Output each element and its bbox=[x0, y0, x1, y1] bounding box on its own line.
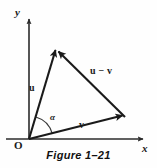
vector-diagram bbox=[0, 0, 157, 168]
vector-u-minus-v-label: u − v bbox=[90, 66, 112, 76]
vector-u-minus-v bbox=[59, 52, 126, 118]
y-axis-label: y bbox=[15, 7, 20, 18]
figure-caption: Figure 1–21 bbox=[0, 150, 157, 161]
axes-group bbox=[6, 19, 143, 139]
vector-v bbox=[29, 116, 123, 140]
vector-v-label: v bbox=[79, 120, 84, 130]
vector-u-label: u bbox=[29, 83, 35, 93]
vector-u bbox=[29, 50, 56, 139]
figure-container: y x O u u − v v α Figure 1–21 bbox=[0, 0, 157, 168]
angle-alpha-label: α bbox=[50, 113, 55, 122]
